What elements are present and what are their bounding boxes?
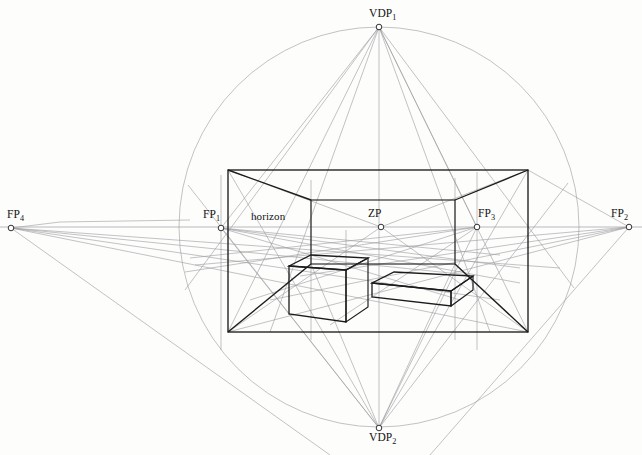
point-marker-fp3[interactable] (474, 224, 480, 230)
label-fp3-text: FP (478, 207, 491, 219)
label-horizon: horizon (251, 211, 285, 222)
vdp2-ray-b (379, 170, 528, 428)
label-fp3: FP3 (478, 208, 495, 223)
label-vdp1-sub: 1 (392, 13, 396, 22)
vdp2-ray-a (228, 170, 379, 428)
vdp1-ray-g (185, 27, 379, 290)
label-vdp1: VDP1 (369, 8, 397, 23)
label-fp3-sub: 3 (491, 213, 495, 222)
label-fp1-text: FP (203, 208, 216, 220)
label-vdp1-text: VDP (369, 7, 392, 19)
label-zp: ZP (368, 208, 382, 220)
label-fp2: FP2 (611, 208, 628, 223)
point-marker-fp2[interactable] (626, 224, 632, 230)
vdp2-ray-h (379, 264, 455, 428)
perspective-diagram-canvas: VDP1 VDP2 FP1 FP2 FP3 FP4 ZP horizon (0, 0, 642, 455)
slab-front-face (372, 283, 451, 306)
point-marker-vdp2[interactable] (376, 425, 382, 431)
label-fp1: FP1 (203, 209, 220, 224)
diagram-svg (0, 0, 642, 455)
label-fp4-text: FP (7, 208, 20, 220)
point-marker-fp4[interactable] (8, 225, 14, 231)
vdp1-ray-b (270, 27, 379, 332)
label-horizon-text: horizon (251, 210, 285, 222)
label-fp4: FP4 (7, 209, 24, 224)
label-fp4-sub: 4 (20, 214, 24, 223)
label-fp2-sub: 2 (624, 213, 628, 222)
fp4-ray-a (11, 228, 528, 332)
vdp1-ray-a (228, 27, 379, 332)
label-vdp2-sub: 2 (392, 437, 396, 446)
room-box (228, 170, 528, 332)
construction-lines-faint (0, 27, 642, 455)
slab-right-face (451, 276, 473, 306)
fp3-ray-a (185, 227, 477, 272)
label-fp1-sub: 1 (216, 214, 220, 223)
point-marker-zp[interactable] (378, 224, 384, 230)
point-marker-vdp1[interactable] (376, 24, 382, 30)
label-zp-text: ZP (368, 207, 382, 219)
vdp2-ray-g (311, 264, 379, 428)
fp4-ray-g (60, 220, 190, 222)
point-markers (8, 24, 632, 431)
label-vdp2-text: VDP (369, 431, 392, 443)
recede-top-right (455, 170, 528, 200)
label-fp2-text: FP (611, 207, 624, 219)
recede-top-left (228, 170, 311, 200)
vdp1-ray-e (221, 27, 379, 228)
point-marker-fp1[interactable] (218, 225, 224, 231)
fp1-ray-d (221, 228, 500, 255)
picture-plane-rect (228, 170, 528, 332)
recede-bottom-right (455, 264, 528, 332)
cube-object (289, 255, 368, 322)
label-vdp2: VDP2 (369, 432, 397, 447)
